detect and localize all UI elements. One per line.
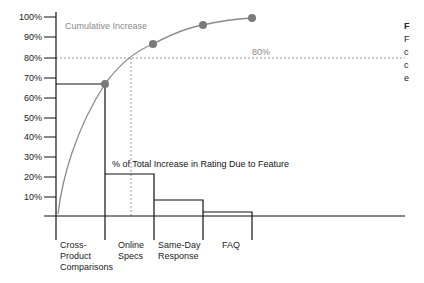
svg-text:Specs: Specs [118, 251, 144, 261]
svg-text:Product: Product [60, 251, 92, 261]
bar-online-specs [105, 174, 154, 240]
bar-same-day [154, 200, 203, 240]
reference-label: 80% [252, 47, 270, 57]
svg-text:Cross-: Cross- [60, 240, 87, 250]
y-ticks [44, 17, 56, 197]
svg-text:Comparisons: Comparisons [60, 262, 114, 272]
cumulative-label: Cumulative Increase [65, 21, 147, 31]
svg-text:10%: 10% [24, 192, 42, 202]
svg-text:Online: Online [118, 240, 144, 250]
clipped-side-text-2: F [404, 33, 410, 46]
marker-2 [149, 40, 157, 48]
svg-text:20%: 20% [24, 172, 42, 182]
svg-text:30%: 30% [24, 152, 42, 162]
clipped-side-text-5: e [404, 72, 409, 85]
svg-text:90%: 90% [24, 32, 42, 42]
svg-text:70%: 70% [24, 73, 42, 83]
clipped-side-text-3: c [404, 46, 409, 59]
clipped-side-text-1: F [404, 20, 410, 33]
svg-text:40%: 40% [24, 132, 42, 142]
marker-1 [101, 80, 109, 88]
marker-3 [199, 21, 207, 29]
svg-text:FAQ: FAQ [222, 240, 240, 250]
clipped-side-text-4: c [404, 59, 409, 72]
svg-text:80%: 80% [24, 53, 42, 63]
svg-text:Same-Day: Same-Day [158, 240, 201, 250]
y-tick-labels: 100% 90% 80% 70% 60% 50% 40% 30% 20% 10% [19, 12, 42, 202]
marker-4 [248, 14, 256, 22]
bar-cross-product [56, 84, 105, 240]
pareto-chart: 80% 100% 90% 80% 70% 60% 50% 40% 30% 20%… [0, 0, 424, 283]
svg-text:100%: 100% [19, 12, 42, 22]
x-category-labels: Cross- Product Comparisons Online Specs … [60, 240, 240, 272]
bars-label: % of Total Increase in Rating Due to Fea… [112, 159, 289, 169]
svg-text:60%: 60% [24, 93, 42, 103]
svg-text:50%: 50% [24, 113, 42, 123]
svg-text:Response: Response [158, 251, 199, 261]
